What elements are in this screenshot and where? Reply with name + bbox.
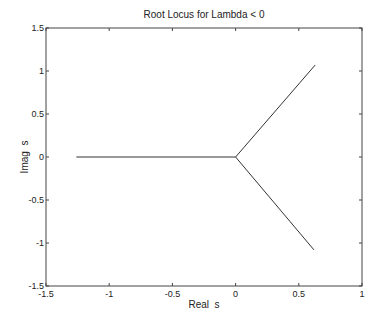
y-tick-label: 0.5 <box>31 109 44 119</box>
data-series <box>76 65 315 250</box>
x-tick-label: 0.5 <box>293 289 306 299</box>
x-tick-label: 1 <box>359 289 364 299</box>
y-tick-label: 1.5 <box>31 23 44 33</box>
y-tick-label: -1.5 <box>28 281 44 291</box>
locus-branch <box>236 157 314 250</box>
locus-branch <box>236 65 316 157</box>
y-tick-label: -0.5 <box>28 195 44 205</box>
root-locus-chart: Root Locus for Lambda < 0 -1.5-1-0.500.5… <box>0 0 382 322</box>
y-tick-label: -1 <box>36 238 44 248</box>
x-tick-label: 0 <box>233 289 238 299</box>
x-axis-label: Real s <box>188 299 219 310</box>
chart-title: Root Locus for Lambda < 0 <box>144 9 265 20</box>
y-axis-label: Imag s <box>19 141 30 174</box>
y-tick-label: 0 <box>39 152 44 162</box>
x-tick-label: -0.5 <box>165 289 181 299</box>
x-tick-label: -1 <box>105 289 113 299</box>
x-axis: -1.5-1-0.500.51 <box>38 28 364 299</box>
y-tick-label: 1 <box>39 66 44 76</box>
